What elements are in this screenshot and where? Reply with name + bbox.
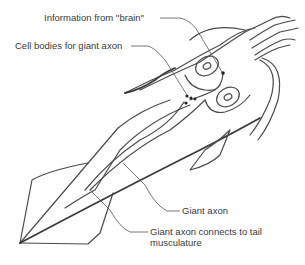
leader-giant-axon xyxy=(123,163,180,211)
cell-body-2 xyxy=(189,96,192,99)
eye-lower-pupil xyxy=(223,92,233,101)
giant-axon-path xyxy=(85,102,184,190)
leader-tail-connection xyxy=(90,190,148,232)
tentacle-4 xyxy=(255,39,295,55)
head-contour xyxy=(185,75,220,90)
leader-information-from-brain xyxy=(160,18,222,72)
mantle-upper-edge xyxy=(20,100,170,243)
head-lower-contour xyxy=(205,95,250,113)
eye-upper-pupil xyxy=(202,61,212,70)
label-tail-connection-line2: musculature xyxy=(150,237,202,248)
tentacle-3 xyxy=(252,28,298,48)
arm-long-2 xyxy=(258,58,280,140)
eye-upper xyxy=(192,52,222,80)
cell-body-3 xyxy=(184,101,187,104)
label-cell-bodies: Cell bodies for giant axon xyxy=(15,40,122,51)
head-top xyxy=(140,32,245,90)
label-giant-axon: Giant axon xyxy=(182,205,228,216)
cell-body-4 xyxy=(194,98,197,101)
squid-diagram: Information from ''brain'' Cell bodies f… xyxy=(0,0,305,265)
label-tail-connection-line1: Giant axon connects to tail xyxy=(150,226,262,237)
side-fin xyxy=(190,130,230,170)
arm-long-1 xyxy=(250,60,273,135)
label-information-from-brain: Information from ''brain'' xyxy=(44,12,144,23)
tentacle-5 xyxy=(255,45,290,60)
